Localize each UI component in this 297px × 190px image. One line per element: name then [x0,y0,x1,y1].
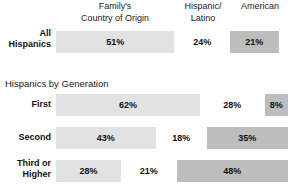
bar-first: 62% 28% 8% [56,94,288,116]
column-header-american: American [232,1,288,13]
bar-segment-american: 21% [230,31,279,53]
row-label-first-line1: First [0,99,51,110]
row-label-all-hispanics: All Hispanics [0,28,51,49]
row-label-third-or-higher: Third or Higher [0,158,51,179]
row-label-third-line2: Higher [0,169,51,180]
bar-segment-latino: 21% [121,160,177,182]
row-label-third-line1: Third or [0,158,51,169]
bar-segment-origin: 51% [56,31,174,53]
bar-all-hispanics: 51% 24% 21% [56,31,288,53]
bar-segment-american: 48% [177,160,288,182]
row-label-second-line1: Second [0,132,51,143]
row-label-first: First [0,99,51,110]
row-label-second: Second [0,132,51,143]
bar-segment-origin: 28% [56,160,121,182]
chart-row-third-or-higher: Third or Higher 28% 21% 48% [0,160,297,182]
bar-segment-origin: 43% [56,127,156,149]
bar-segment-latino: 18% [156,127,207,149]
section-label-hispanics-by-generation: Hispanics by Generation [5,78,109,89]
bar-segment-latino: 28% [200,94,265,116]
bar-segment-origin: 62% [56,94,200,116]
column-header-latino-line2: Latino [174,13,232,25]
row-label-all-hispanics-line1: All [0,28,51,39]
bar-second: 43% 18% 35% [56,127,288,149]
column-header-origin-line1: Family's [56,1,174,13]
column-header-origin-line2: Country of Origin [56,13,174,25]
bar-third-or-higher: 28% 21% 48% [56,160,288,182]
column-header-latino-line1: Hispanic/ [174,1,232,13]
bar-segment-latino: 24% [174,31,230,53]
chart-row-second: Second 43% 18% 35% [0,127,297,149]
stacked-bar-chart: Family's Country of Origin Hispanic/ Lat… [0,0,297,190]
bar-segment-american: 35% [207,127,288,149]
column-headers: Family's Country of Origin Hispanic/ Lat… [56,1,288,27]
column-header-family-country-of-origin: Family's Country of Origin [56,1,174,24]
column-header-hispanic-latino: Hispanic/ Latino [174,1,232,24]
chart-row-all-hispanics: All Hispanics 51% 24% 21% [0,31,297,53]
bar-segment-american: 8% [265,94,288,116]
chart-row-first: First 62% 28% 8% [0,94,297,116]
column-header-american-line1: American [232,1,288,13]
row-label-all-hispanics-line2: Hispanics [0,39,51,50]
